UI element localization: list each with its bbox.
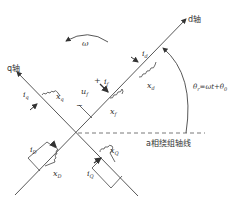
q-axis-label: q轴	[7, 63, 20, 73]
xq-label: xq	[56, 92, 64, 103]
xD-label: xD	[53, 169, 62, 179]
theta-angle-arc	[163, 48, 188, 133]
iQ-label: iQ	[87, 169, 94, 179]
q-axis-line	[17, 72, 138, 196]
d-axis-line	[15, 19, 186, 195]
iD-label: iD	[30, 145, 37, 155]
omega-label: ω	[82, 39, 89, 48]
d-axis-label: d轴	[188, 14, 201, 24]
minus-sign: −	[76, 101, 83, 110]
xd-label: xd	[147, 81, 155, 91]
theta-label: θr=ωt+θ0	[193, 83, 228, 92]
d-winding	[131, 57, 156, 77]
uf-label: uf	[81, 87, 89, 98]
xf-label: xf	[110, 107, 118, 118]
dq-axis-diagram: d轴 q轴 a相绕组轴线 ω θr=ωt+θ0 id xd iq xq uf +…	[0, 0, 239, 209]
if-label: if	[104, 77, 110, 88]
plus-sign: +	[94, 76, 101, 85]
iq-label: iq	[23, 90, 29, 101]
id-label: id	[142, 49, 148, 59]
xQ-label: xQ	[110, 146, 119, 156]
a-phase-axis-label: a相绕组轴线	[146, 138, 191, 148]
